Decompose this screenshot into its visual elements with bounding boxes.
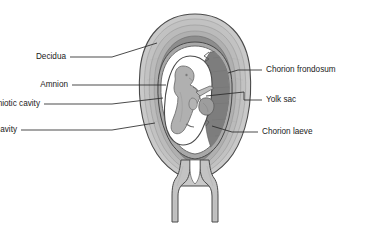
label-yolk-sac-text: Yolk sac <box>266 95 296 104</box>
label-amniotic-cavity-text: Amniotic cavity <box>0 99 40 108</box>
diagram-canvas: Decidua Amnion Amniotic cavity Extra amn… <box>0 0 371 235</box>
label-extra-amniotic-cavity: Extra amniotic cavity <box>0 125 17 135</box>
label-chorion-frondosum: Chorion frondosum <box>266 65 336 75</box>
leader-line-extra-amniotic-cavity <box>21 123 155 130</box>
amniotic-fold <box>189 98 197 110</box>
label-amniotic-cavity: Amniotic cavity <box>0 99 40 109</box>
embryo-eye <box>185 74 187 77</box>
label-decidua: Decidua <box>36 52 66 62</box>
label-amnion: Amnion <box>40 80 68 90</box>
label-chorion-laeve: Chorion laeve <box>262 127 313 137</box>
uterus-cross-section-figure <box>0 0 371 235</box>
label-decidua-text: Decidua <box>36 52 66 61</box>
label-amnion-text: Amnion <box>40 80 68 89</box>
label-chorion-laeve-text: Chorion laeve <box>262 127 313 136</box>
label-extra-amniotic-cavity-text: Extra amniotic cavity <box>0 125 17 134</box>
label-yolk-sac: Yolk sac <box>266 95 296 105</box>
cervix-group <box>172 160 218 222</box>
label-chorion-frondosum-text: Chorion frondosum <box>266 65 336 74</box>
